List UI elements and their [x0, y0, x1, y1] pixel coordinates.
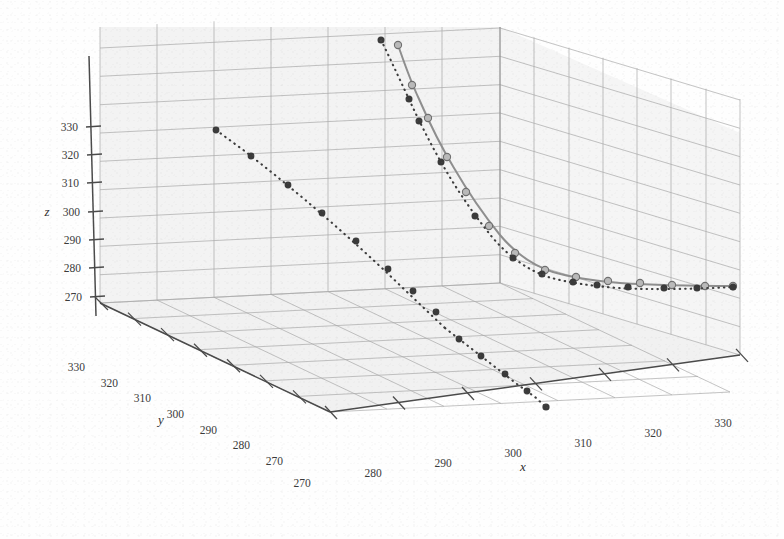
- z-ticklabel: 280: [64, 262, 82, 274]
- x-ticklabel: 320: [644, 427, 662, 439]
- y-axis-title: y: [156, 412, 164, 427]
- y-ticklabel: 300: [167, 408, 185, 420]
- plot-panes: [100, 27, 740, 412]
- z-ticklabel: 330: [61, 121, 79, 133]
- y-ticklabel: 290: [200, 424, 218, 436]
- z-ticklabel: 290: [64, 234, 82, 246]
- z-axis-title: z: [43, 204, 49, 219]
- figure-canvas: 330 320 310 300 290 280 270 z 330 320 31…: [0, 0, 784, 539]
- x-axis-title: x: [519, 459, 526, 474]
- x-ticklabel: 310: [574, 437, 592, 449]
- z-ticklabel: 300: [63, 206, 81, 218]
- z-axis-ticklabels: 330 320 310 300 290 280 270: [61, 121, 83, 303]
- y-ticklabel: 280: [233, 439, 251, 451]
- y-ticklabel: 310: [134, 392, 152, 404]
- three-d-scatter-plot: 330 320 310 300 290 280 270 z 330 320 31…: [0, 0, 784, 539]
- y-ticklabel: 330: [68, 361, 86, 373]
- x-ticklabel: 270: [293, 477, 311, 489]
- y-ticklabel: 320: [101, 377, 119, 389]
- x-axis-ticklabels: 270 280 290 300 310 320 330: [293, 417, 732, 489]
- z-ticklabel: 270: [65, 291, 83, 303]
- z-ticklabel: 310: [62, 177, 80, 189]
- y-axis-ticklabels: 330 320 310 300 290 280 270: [68, 361, 284, 467]
- x-ticklabel: 300: [504, 447, 522, 459]
- x-ticklabel: 330: [714, 417, 732, 429]
- z-ticklabel: 320: [62, 149, 80, 161]
- x-ticklabel: 290: [434, 457, 452, 469]
- y-ticklabel: 270: [266, 455, 284, 467]
- x-ticklabel: 280: [364, 467, 382, 479]
- z-axis-spine: [89, 56, 96, 316]
